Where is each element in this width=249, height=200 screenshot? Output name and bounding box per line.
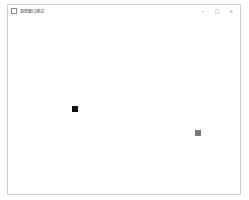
player-square [72,106,78,112]
game-window: 游戏窗口测试 – □ × [7,4,241,195]
minimize-button[interactable]: – [196,5,210,17]
enemy-square [195,130,201,136]
maximize-button[interactable]: □ [210,5,224,17]
title-bar[interactable]: 游戏窗口测试 – □ × [8,5,240,17]
window-controls: – □ × [196,5,238,17]
game-canvas[interactable] [8,17,240,194]
app-icon [11,8,17,14]
close-button[interactable]: × [224,5,238,17]
window-title: 游戏窗口测试 [20,8,44,14]
